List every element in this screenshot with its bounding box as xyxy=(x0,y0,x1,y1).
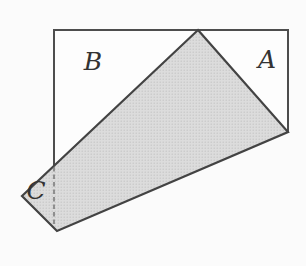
label-region-b: B xyxy=(83,47,102,76)
label-region-c: C xyxy=(26,176,45,205)
figure-canvas: B A C xyxy=(0,0,306,266)
label-region-a: A xyxy=(256,45,276,74)
geometry-figure: B A C xyxy=(0,0,306,266)
